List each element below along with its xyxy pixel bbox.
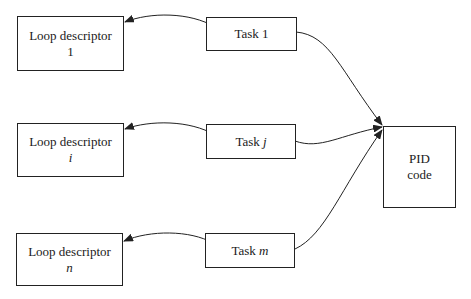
- task-label: Task: [235, 134, 259, 150]
- task-1: Task 1: [206, 17, 297, 51]
- task-label: Task: [231, 243, 255, 259]
- pid-label-line2: code: [407, 167, 432, 183]
- task-index: 1: [262, 26, 269, 42]
- pid-label-line1: PID: [409, 151, 430, 167]
- task-index: m: [259, 243, 268, 259]
- loop-descriptor-label: Loop descriptor: [29, 28, 112, 44]
- task-j: Task j: [206, 124, 296, 159]
- loop-descriptor-i: Loop descriptor i: [17, 123, 124, 177]
- loop-descriptor-index: i: [69, 150, 73, 166]
- task-index: j: [263, 134, 267, 150]
- loop-descriptor-n: Loop descriptor n: [16, 233, 123, 286]
- loop-descriptor-label: Loop descriptor: [28, 244, 111, 260]
- loop-descriptor-label: Loop descriptor: [29, 134, 112, 150]
- loop-descriptor-index: n: [66, 260, 73, 276]
- loop-descriptor-index: 1: [67, 44, 74, 60]
- task-m: Task m: [205, 233, 295, 268]
- task-label: Task: [234, 26, 258, 42]
- pid-code-box: PID code: [383, 126, 456, 208]
- loop-descriptor-1: Loop descriptor 1: [17, 16, 124, 71]
